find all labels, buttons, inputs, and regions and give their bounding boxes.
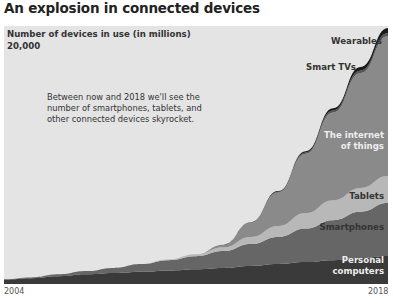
label-iot-line2: of things: [324, 141, 384, 152]
label-pc-line2: computers: [332, 266, 384, 277]
label-iot-line1: The internet: [324, 130, 384, 141]
x-tick-start: 2004: [4, 287, 24, 296]
label-wearables: Wearables: [331, 36, 382, 47]
label-pc-line1: Personal: [332, 255, 384, 266]
chart-title: An explosion in connected devices: [4, 0, 260, 16]
y-axis-max-tick: 20,000: [7, 41, 40, 51]
label-tablets: Tablets: [349, 191, 384, 202]
plot-area: Number of devices in use (in millions) 2…: [4, 26, 388, 284]
label-internet-of-things: The internet of things: [324, 130, 384, 152]
chart-annotation: Between now and 2018 we'll see the numbe…: [47, 92, 217, 125]
label-personal-computers: Personal computers: [332, 255, 384, 277]
x-tick-end: 2018: [368, 287, 388, 296]
y-axis-label: Number of devices in use (in millions): [7, 29, 191, 39]
label-smartphones: Smartphones: [319, 222, 384, 233]
label-smart-tvs: Smart TVs: [306, 62, 356, 73]
